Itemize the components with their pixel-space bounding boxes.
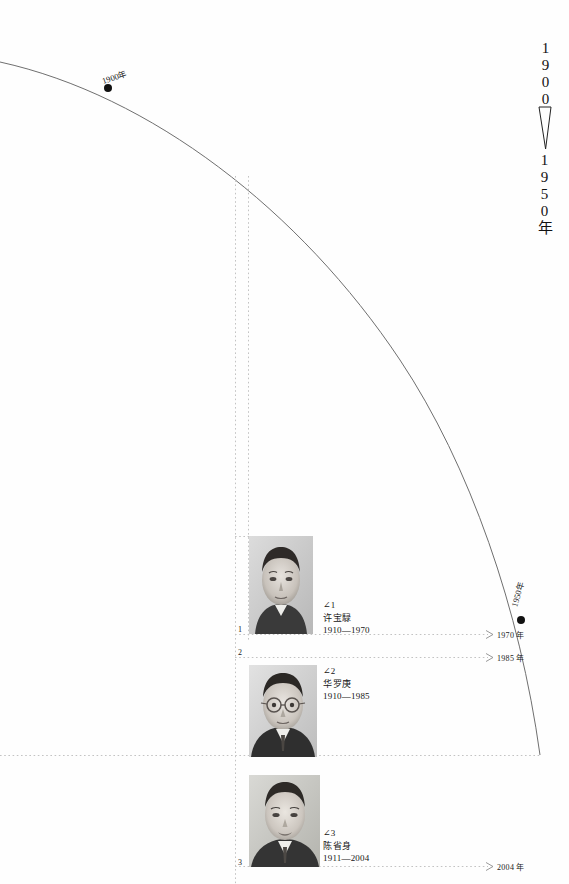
year-callout-2: 1985 年 xyxy=(497,652,525,663)
rule-index-3: 3 xyxy=(238,858,242,867)
curve-dot-1950 xyxy=(517,616,525,624)
timeline-figure: 1900 1950年 1900年 1950年 xyxy=(0,0,569,884)
person-name-2: 华罗庚 xyxy=(323,678,370,691)
person-years-2: 1910—1985 xyxy=(323,690,370,703)
person-meta-2: ∠2 华罗庚 1910—1985 xyxy=(323,665,370,703)
person-name-1: 许宝騄 xyxy=(323,612,370,625)
axis-caption: 1900 1950年 xyxy=(527,40,563,230)
person-years-3: 1911—2004 xyxy=(323,852,369,865)
portrait-photo-3 xyxy=(249,775,320,867)
portrait-photo-1 xyxy=(249,536,313,634)
year-callout-3: 2004 年 xyxy=(497,861,525,872)
person-angle-2: ∠2 xyxy=(323,665,370,678)
rule-index-2: 2 xyxy=(238,648,242,657)
axis-caption-top: 1900 xyxy=(537,40,554,108)
person-years-1: 1910—1970 xyxy=(323,624,370,637)
person-card-2: ∠2 华罗庚 1910—1985 xyxy=(249,665,489,757)
person-angle-1: ∠1 xyxy=(323,599,370,612)
person-card-3: ∠3 陈省身 1911—2004 xyxy=(249,775,489,867)
axis-caption-bottom: 1950年 xyxy=(535,152,556,236)
person-angle-3: ∠3 xyxy=(323,827,369,840)
axis-taper-icon xyxy=(537,106,553,150)
rule-index-1: 1 xyxy=(238,625,242,634)
timeline-curve xyxy=(0,62,540,755)
portrait-photo-2 xyxy=(249,665,317,757)
person-meta-1: ∠1 许宝騄 1910—1970 xyxy=(323,599,370,637)
person-card-1: ∠1 许宝騄 1910—1970 xyxy=(249,536,489,634)
person-name-3: 陈省身 xyxy=(323,840,369,853)
person-meta-3: ∠3 陈省身 1911—2004 xyxy=(323,827,369,865)
year-callout-1: 1970 年 xyxy=(497,629,525,640)
